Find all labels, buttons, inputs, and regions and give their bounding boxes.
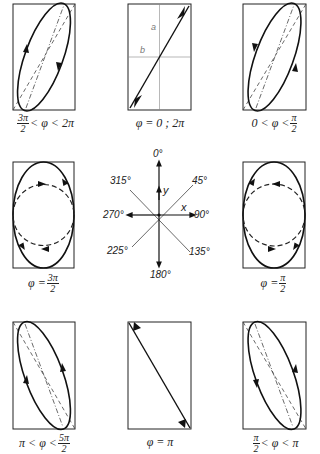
arrow-icon xyxy=(59,178,69,187)
numerator: π xyxy=(279,273,286,284)
arrow-icon xyxy=(248,178,258,187)
fraction: 3π2 xyxy=(17,113,29,134)
angle-45: 45° xyxy=(192,175,207,186)
arrow-icon xyxy=(272,181,280,187)
label-top-left: 3π2 < φ < 2π xyxy=(10,112,80,134)
amplitude-line xyxy=(129,323,190,428)
fraction: 3π2 xyxy=(47,273,59,294)
fraction: π2 xyxy=(290,113,297,134)
axis-label-y: y xyxy=(163,184,169,196)
arrow-icon xyxy=(38,181,46,187)
panel-top-left xyxy=(7,0,82,117)
label-pre: φ = xyxy=(28,276,46,291)
panel-bottom-left xyxy=(7,315,82,435)
denominator: 2 xyxy=(291,124,296,134)
label-bottom-right: π2 < φ < π xyxy=(240,432,310,454)
angle-90: 90° xyxy=(194,209,209,220)
label-text: φ = 0 ; 2π xyxy=(136,116,185,131)
ellipse-curve xyxy=(243,162,305,268)
diagonal-dashed xyxy=(243,322,306,429)
arrow-icon xyxy=(134,95,142,108)
fraction: 5π2 xyxy=(58,433,70,454)
numerator: 3π xyxy=(17,113,29,124)
phase-compass xyxy=(129,163,193,265)
ellipse-curve xyxy=(237,315,312,435)
panel-top-right xyxy=(237,0,312,117)
fraction: π2 xyxy=(279,273,286,294)
label-post: < φ < 2π xyxy=(30,116,74,131)
circle-dashed xyxy=(243,184,305,246)
arrow-icon xyxy=(292,63,298,72)
arrow-icon xyxy=(41,246,49,252)
panel-top-center xyxy=(128,4,191,110)
numerator: π xyxy=(290,113,297,124)
numerator: 3π xyxy=(47,273,59,284)
denominator: 2 xyxy=(50,284,55,294)
major-axis-dashed xyxy=(255,324,293,427)
ellipse-curve xyxy=(13,162,74,268)
angle-135: 135° xyxy=(189,246,210,257)
arrow-icon xyxy=(178,419,186,428)
denominator: 2 xyxy=(254,444,259,454)
label-bottom-left: π < φ < 5π2 xyxy=(10,432,80,454)
label-pre: φ = xyxy=(261,276,279,291)
angle-225: 225° xyxy=(107,245,128,256)
label-text: φ = π xyxy=(147,435,174,450)
circle-dashed xyxy=(13,185,74,246)
label-middle-left: φ = 3π2 xyxy=(10,271,78,295)
panel-middle-left xyxy=(13,162,74,268)
origin-dot xyxy=(157,213,160,216)
fraction: π2 xyxy=(253,433,260,454)
label-top-right: 0 < φ < π2 xyxy=(240,112,310,134)
numerator: 5π xyxy=(58,433,70,444)
denominator: 2 xyxy=(21,124,26,134)
angle-0: 0° xyxy=(153,148,163,159)
angle-270: 270° xyxy=(103,209,124,220)
major-axis-dashed xyxy=(26,5,64,108)
angle-315: 315° xyxy=(110,175,131,186)
arrow-icon xyxy=(133,322,141,331)
diagonal-dashed xyxy=(13,4,75,110)
denominator: 2 xyxy=(280,284,285,294)
angle-180: 180° xyxy=(150,269,171,280)
major-axis-dashed xyxy=(25,324,63,427)
label-middle-right: φ = π2 xyxy=(240,271,308,295)
panel-bottom-right xyxy=(237,315,312,435)
arrow-icon xyxy=(268,246,276,252)
arrow-icon xyxy=(177,6,185,19)
label-bottom-center: φ = π xyxy=(124,433,196,451)
label-top-center: φ = 0 ; 2π xyxy=(124,113,196,133)
label-post: < φ < π xyxy=(261,436,299,451)
panel-bottom-center xyxy=(128,322,191,429)
numerator: π xyxy=(253,433,260,444)
axis-label-x: x xyxy=(181,201,187,213)
nw-se-line xyxy=(130,190,190,252)
panel-middle-right xyxy=(243,162,305,268)
axis-label-b: b xyxy=(140,45,145,55)
axis-label-a: a xyxy=(151,22,156,32)
major-axis-dashed xyxy=(256,5,294,108)
label-pre: π < φ < xyxy=(19,436,57,451)
label-pre: 0 < φ < xyxy=(252,116,290,131)
denominator: 2 xyxy=(61,444,66,454)
